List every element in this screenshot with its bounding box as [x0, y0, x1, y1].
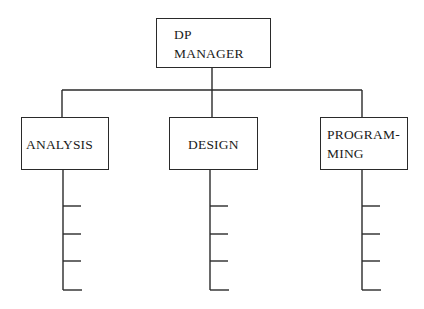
node-label: ANALYSIS [26, 135, 93, 154]
label-line-1: ANALYSIS [26, 135, 93, 154]
label-line-1: PROGRAM- [327, 125, 400, 144]
label-line-1: DESIGN [188, 135, 239, 154]
node-analysis: ANALYSIS [21, 117, 109, 170]
node-label: PROGRAM- MING [327, 125, 400, 163]
node-label: DESIGN [188, 135, 239, 154]
node-programming: PROGRAM- MING [320, 117, 408, 170]
label-line-2: MING [327, 144, 400, 163]
label-line-2: MANAGER [174, 44, 244, 63]
label-line-1: DP [174, 25, 244, 44]
node-label: DP MANAGER [174, 25, 244, 63]
node-dp-manager: DP MANAGER [156, 18, 271, 68]
node-design: DESIGN [169, 117, 258, 170]
